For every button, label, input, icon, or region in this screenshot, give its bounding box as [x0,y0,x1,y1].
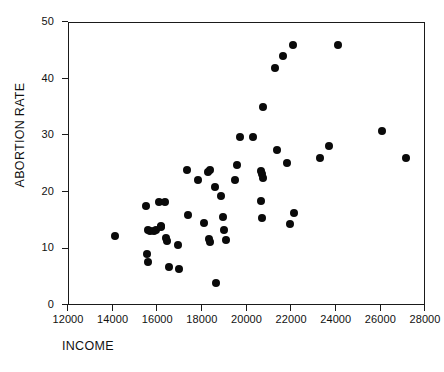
data-point [111,232,119,240]
x-axis-tick [112,305,113,311]
data-point [165,263,173,271]
data-point [259,174,267,182]
data-point [236,133,244,141]
data-point [183,166,191,174]
data-point [206,238,214,246]
data-point [286,220,294,228]
data-point [174,241,182,249]
data-point [194,176,202,184]
data-point [163,237,171,245]
data-point [257,197,265,205]
data-point [258,214,266,222]
x-axis-tick [156,305,157,311]
y-axis-tick-label: 50 [8,16,54,27]
data-point [212,279,220,287]
y-axis-tick-label: 40 [8,73,54,84]
data-point [249,133,257,141]
x-axis-title: INCOME [62,339,114,353]
data-point [231,176,239,184]
data-point [184,211,192,219]
x-axis-tick [246,305,247,311]
data-point [222,236,230,244]
data-point [143,250,151,258]
data-point [325,142,333,150]
data-point [220,226,228,234]
x-axis-tick [290,305,291,311]
data-points-layer [69,23,424,304]
x-axis-tick [424,305,425,311]
data-point [157,223,165,231]
plot-area [68,22,425,305]
data-point [279,52,287,60]
y-axis-tick-label: 20 [8,186,54,197]
scatter-plot-figure: ABORTION RATE 01020304050 12000140001600… [0,0,444,372]
x-axis-tick [380,305,381,311]
data-point [289,41,297,49]
y-axis-tick-label: 30 [8,129,54,140]
data-point [175,265,183,273]
data-point [144,258,152,266]
data-point [217,192,225,200]
x-axis-tick [201,305,202,311]
data-point [233,161,241,169]
x-axis-tick-label: 28000 [393,313,444,325]
data-point [283,159,291,167]
data-point [402,154,410,162]
data-point [211,183,219,191]
data-point [378,127,386,135]
data-point [219,213,227,221]
data-point [334,41,342,49]
data-point [273,146,281,154]
data-point [259,103,267,111]
data-point [271,64,279,72]
data-point [206,166,214,174]
data-point [316,154,324,162]
x-axis-tick [67,305,68,311]
data-point [161,198,169,206]
data-point [290,209,298,217]
data-point [200,219,208,227]
data-point [142,202,150,210]
y-axis-tick-label: 0 [8,299,54,310]
y-axis-tick-label: 10 [8,242,54,253]
x-axis-tick [335,305,336,311]
